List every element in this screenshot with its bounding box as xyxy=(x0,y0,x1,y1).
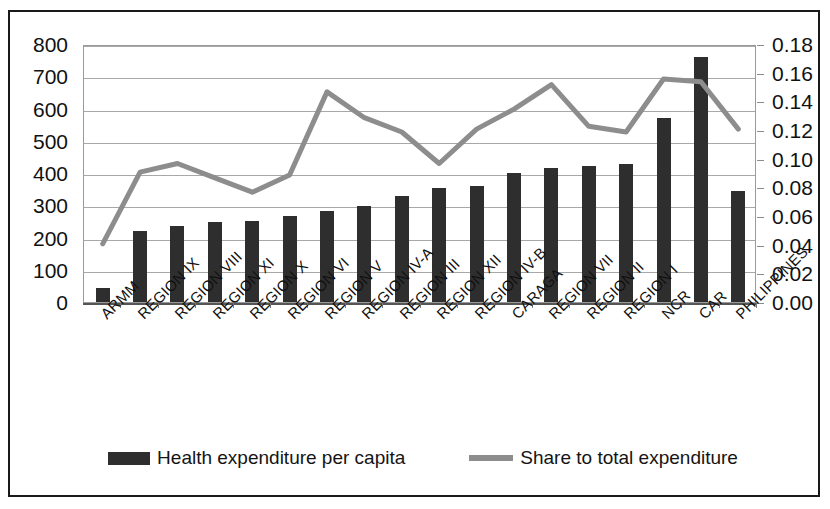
chart-legend: Health expenditure per capita Share to t… xyxy=(83,443,763,473)
share-to-total-expenditure-line xyxy=(103,79,739,244)
right-axis-tick xyxy=(757,131,764,132)
left-axis-tick-label: 300 xyxy=(8,195,68,216)
left-axis-tick-label: 200 xyxy=(8,228,68,249)
left-axis-tick-label: 800 xyxy=(8,34,68,55)
right-axis-tick-label: 0.16 xyxy=(772,63,830,84)
right-axis-tick xyxy=(757,274,764,275)
right-axis-tick-label: 0.18 xyxy=(772,34,830,55)
left-axis-tick-label: 100 xyxy=(8,260,68,281)
right-axis-tick-label: 0.14 xyxy=(772,91,830,112)
chart-figure: 0100200300400500600700800 0.000.020.040.… xyxy=(0,0,830,509)
right-axis-tick xyxy=(757,74,764,75)
right-axis-tick xyxy=(757,188,764,189)
legend-line-swatch-icon xyxy=(469,455,513,461)
right-axis-tick xyxy=(757,102,764,103)
left-axis-tick-label: 600 xyxy=(8,99,68,120)
left-axis-tick-label: 400 xyxy=(8,163,68,184)
legend-bar-swatch-icon xyxy=(108,452,150,465)
left-axis-tick-label: 500 xyxy=(8,131,68,152)
right-axis-tick xyxy=(757,160,764,161)
legend-item-share-to-total-expenditure: Share to total expenditure xyxy=(469,447,738,469)
right-axis-tick-label: 0.06 xyxy=(772,206,830,227)
right-axis-tick-label: 0.10 xyxy=(772,149,830,170)
legend-label-health-expenditure-per-capita: Health expenditure per capita xyxy=(157,447,405,469)
legend-item-health-expenditure-per-capita: Health expenditure per capita xyxy=(108,447,405,469)
right-axis-tick-label: 0.08 xyxy=(772,177,830,198)
right-axis-tick-label: 0.12 xyxy=(772,120,830,141)
right-axis-tick xyxy=(757,217,764,218)
left-axis-tick-label: 700 xyxy=(8,66,68,87)
right-axis-tick xyxy=(757,246,764,247)
left-axis-tick-label: 0 xyxy=(8,292,68,313)
legend-label-share-to-total-expenditure: Share to total expenditure xyxy=(520,447,738,469)
right-axis-tick-label: 0.00 xyxy=(772,292,830,313)
right-axis-tick xyxy=(757,45,764,46)
